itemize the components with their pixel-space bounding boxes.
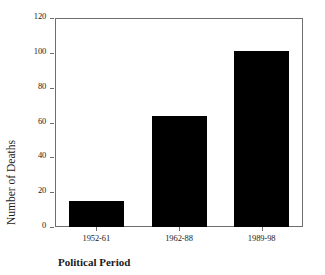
y-axis-tick-label: 80 xyxy=(38,82,46,91)
y-axis-tick-mark xyxy=(50,157,54,158)
y-axis-tick-label: 20 xyxy=(38,186,46,195)
y-axis-tick-mark xyxy=(50,123,54,124)
x-axis-tick-mark xyxy=(262,227,263,231)
x-axis-tick-mark xyxy=(179,227,180,231)
x-axis-title-label: Political Period xyxy=(58,256,130,269)
y-axis-tick-label: 40 xyxy=(38,151,46,160)
x-axis-tick-label: 1952-61 xyxy=(83,233,111,243)
x-axis-tick-label: 1989-98 xyxy=(248,233,276,243)
bar xyxy=(69,201,124,227)
y-axis-tick-mark xyxy=(50,192,54,193)
y-axis-tick-label: 100 xyxy=(34,47,46,56)
bar-chart-figure: 020406080100120 1952-611962-881989-98 Nu… xyxy=(0,0,325,275)
y-axis: 020406080100120 xyxy=(0,18,55,227)
x-axis: 1952-611962-881989-98 xyxy=(55,227,303,249)
y-axis-tick-label: 0 xyxy=(42,221,46,230)
x-axis-tick-mark xyxy=(96,227,97,231)
y-axis-tick-mark xyxy=(50,18,54,19)
bars-layer xyxy=(55,18,303,227)
x-axis-tick-label: 1962-88 xyxy=(165,233,193,243)
bar xyxy=(152,116,207,227)
y-axis-tick-mark xyxy=(50,227,54,228)
y-axis-tick-label: 120 xyxy=(34,12,46,21)
y-axis-tick-mark xyxy=(50,53,54,54)
y-axis-tick-mark xyxy=(50,88,54,89)
bar xyxy=(234,51,289,227)
y-axis-tick-label: 60 xyxy=(38,117,46,126)
